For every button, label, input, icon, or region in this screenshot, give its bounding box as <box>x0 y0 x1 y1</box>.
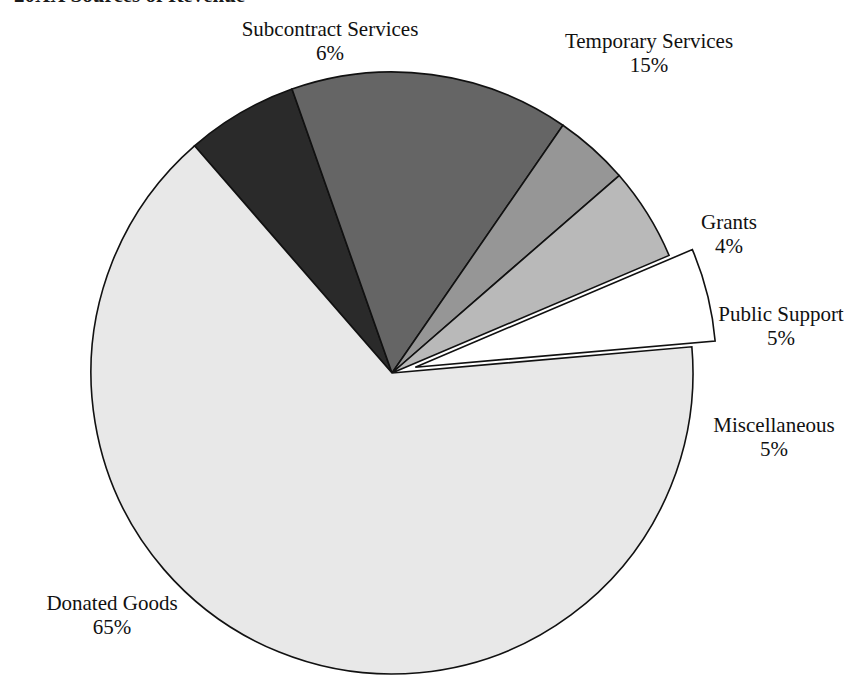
slice-label-percent: 65% <box>18 616 206 640</box>
slice-label-percent: 15% <box>551 54 747 78</box>
pie-chart-figure: 20XX Sources of Revenue Subcontract Serv… <box>0 0 860 700</box>
slice-label-percent: 5% <box>706 327 856 351</box>
slice-label-name: Miscellaneous <box>704 414 844 438</box>
slice-label-name: Donated Goods <box>18 592 206 616</box>
pie-slice-group <box>91 72 715 674</box>
slice-label-percent: 5% <box>704 438 844 462</box>
slice-label-temporary-services: Temporary Services 15% <box>551 30 747 78</box>
slice-label-grants: Grants 4% <box>683 211 775 259</box>
slice-label-miscellaneous: Miscellaneous 5% <box>704 414 844 462</box>
slice-label-name: Subcontract Services <box>232 18 428 42</box>
slice-label-public-support: Public Support 5% <box>706 303 856 351</box>
slice-label-percent: 4% <box>683 235 775 259</box>
slice-label-donated-goods: Donated Goods 65% <box>18 592 206 640</box>
slice-label-name: Grants <box>683 211 775 235</box>
slice-label-name: Temporary Services <box>551 30 747 54</box>
slice-label-subcontract-services: Subcontract Services 6% <box>232 18 428 66</box>
slice-label-name: Public Support <box>706 303 856 327</box>
slice-label-percent: 6% <box>232 42 428 66</box>
